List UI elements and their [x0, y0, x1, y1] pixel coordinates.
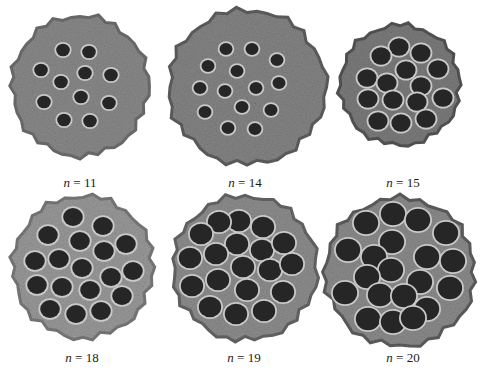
label-value: 19: [248, 350, 261, 365]
carpel-hole: [91, 302, 111, 320]
pod-4-seedpod: [10, 194, 155, 340]
carpel-hole: [66, 305, 86, 323]
label-equals: =: [72, 350, 86, 365]
carpel-hole: [207, 270, 229, 291]
label-value: 11: [84, 175, 97, 190]
carpel-hole: [281, 254, 303, 275]
carpel-hole: [82, 46, 96, 59]
pod-2-seedpod: [169, 7, 328, 165]
carpel-hole: [441, 250, 465, 272]
carpel-hole: [112, 287, 132, 305]
carpel-hole: [250, 82, 263, 94]
carpel-hole: [396, 61, 415, 79]
carpel-hole: [231, 65, 244, 77]
carpel-hole: [94, 242, 114, 260]
carpel-hole: [190, 224, 212, 245]
carpel-hole: [123, 262, 143, 280]
carpel-hole: [333, 282, 357, 304]
carpel-hole: [220, 43, 233, 55]
carpel-hole: [194, 82, 207, 94]
carpel-hole: [271, 54, 284, 66]
carpel-hole: [433, 89, 452, 107]
carpel-hole: [415, 246, 439, 268]
pod-2-count-label: n = 14: [228, 176, 261, 190]
carpel-hole: [72, 259, 92, 277]
carpel-hole: [93, 217, 113, 235]
carpel-hole: [273, 233, 295, 254]
carpel-hole: [102, 97, 116, 110]
carpel-hole: [377, 74, 396, 92]
carpel-hole: [74, 91, 88, 104]
carpel-hole: [251, 240, 273, 261]
pod-5-count-label: n = 19: [227, 351, 260, 365]
seedpod-figure: n = 11n = 14n = 15n = 18n = 19n = 20: [0, 0, 483, 375]
pod-6-seedpod: [323, 194, 476, 346]
carpel-hole: [25, 252, 45, 270]
carpel-hole: [199, 297, 221, 318]
carpel-hole: [40, 300, 60, 318]
carpel-hole: [236, 280, 258, 301]
carpel-hole: [34, 64, 48, 77]
carpel-hole: [225, 304, 247, 325]
label-equals: =: [234, 350, 248, 365]
carpel-hole: [356, 308, 380, 330]
carpel-hole: [104, 69, 118, 82]
pod-1-seedpod: [10, 15, 150, 159]
carpel-hole: [236, 101, 249, 113]
carpel-hole: [205, 244, 227, 265]
carpel-hole: [37, 96, 51, 109]
pod-6-count-label: n = 20: [386, 351, 419, 365]
carpel-hole: [401, 307, 425, 329]
carpel-hole: [57, 114, 71, 127]
carpel-hole: [27, 276, 47, 294]
carpel-hole: [232, 257, 254, 278]
carpel-hole: [379, 259, 403, 281]
carpel-hole: [202, 60, 215, 72]
carpel-hole: [181, 276, 203, 297]
carpel-hole: [406, 209, 430, 231]
carpel-hole: [83, 115, 97, 128]
carpel-hole: [56, 44, 70, 57]
carpel-hole: [368, 284, 392, 306]
carpel-hole: [336, 239, 360, 261]
label-value: 14: [249, 175, 262, 190]
carpel-hole: [357, 69, 376, 87]
carpel-hole: [354, 212, 378, 234]
carpel-hole: [434, 222, 458, 244]
carpel-hole: [80, 281, 100, 299]
carpel-hole: [411, 44, 430, 62]
carpel-hole: [371, 47, 390, 65]
carpel-hole: [219, 85, 232, 97]
carpel-hole: [273, 77, 286, 89]
carpel-hole: [438, 277, 462, 299]
carpel-hole: [368, 112, 387, 130]
pod-1-count-label: n = 11: [64, 176, 97, 190]
carpel-hole: [63, 208, 83, 226]
carpel-hole: [54, 76, 68, 89]
carpel-hole: [101, 268, 121, 286]
pod-3-seedpod: [337, 23, 461, 146]
carpel-hole: [383, 91, 402, 109]
carpel-hole: [179, 248, 201, 269]
carpel-hole: [222, 122, 235, 134]
carpel-hole: [252, 217, 274, 238]
label-equals: =: [393, 175, 407, 190]
carpel-hole: [389, 38, 408, 56]
label-equals: =: [70, 175, 84, 190]
carpel-hole: [70, 232, 90, 250]
carpel-hole: [416, 110, 435, 128]
carpel-hole: [116, 235, 136, 253]
carpel-hole: [52, 278, 72, 296]
carpel-hole: [259, 260, 281, 281]
pod-4-count-label: n = 18: [65, 351, 98, 365]
carpel-hole: [392, 285, 416, 307]
carpel-hole: [272, 282, 294, 303]
carpel-hole: [78, 67, 92, 80]
receptacle-body: [10, 15, 150, 159]
label-value: 18: [86, 350, 99, 365]
label-value: 15: [407, 175, 420, 190]
carpel-hole: [253, 301, 275, 322]
carpel-hole: [49, 250, 69, 268]
carpel-hole: [391, 114, 410, 132]
label-value: 20: [407, 350, 420, 365]
